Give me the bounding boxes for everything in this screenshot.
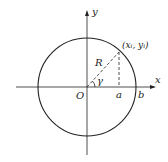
a-label: a bbox=[116, 89, 122, 100]
x-axis-arrow-icon bbox=[150, 85, 156, 89]
origin-label: O bbox=[76, 90, 84, 101]
circle-diagram: y x O R γ a b (xᵢ, yᵢ) bbox=[0, 0, 168, 162]
b-label: b bbox=[138, 89, 144, 100]
point-label: (xᵢ, yᵢ) bbox=[122, 40, 149, 50]
angle-label: γ bbox=[97, 75, 103, 86]
y-axis-arrow-icon bbox=[85, 10, 89, 16]
y-axis-label: y bbox=[91, 6, 98, 17]
x-axis-label: x bbox=[155, 74, 161, 85]
angle-arc bbox=[92, 81, 95, 87]
radius-line bbox=[87, 52, 119, 87]
radius-label: R bbox=[94, 57, 103, 68]
